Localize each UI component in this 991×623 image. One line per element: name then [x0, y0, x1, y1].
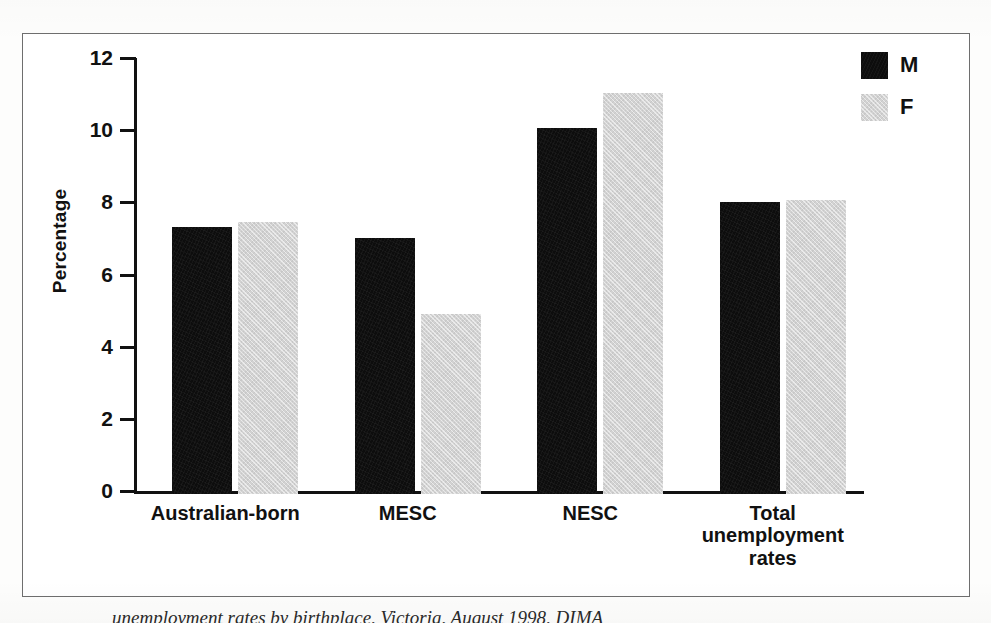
- y-tick-label-10: 10: [53, 119, 113, 140]
- y-tick-6: [120, 274, 136, 277]
- y-tick-label-0: 0: [53, 480, 113, 501]
- legend-entry-m: M: [861, 44, 961, 86]
- y-tick-10: [120, 129, 136, 132]
- bar-m-1: [355, 238, 415, 494]
- y-tick-8: [120, 201, 136, 204]
- legend-swatch-female-icon: [861, 94, 888, 121]
- x-category-line: rates: [657, 547, 890, 569]
- bar-f-3: [786, 200, 846, 494]
- chart-legend: M F: [861, 44, 961, 128]
- y-tick-2: [120, 418, 136, 421]
- scanned-page: 024681012 Percentage Australian-bornMESC…: [0, 0, 991, 623]
- legend-entry-f: F: [861, 86, 961, 128]
- figure-frame: 024681012 Percentage Australian-bornMESC…: [22, 33, 970, 597]
- y-tick-4: [120, 346, 136, 349]
- y-tick-0: [120, 490, 136, 493]
- x-category-line: unemployment: [657, 524, 890, 546]
- bar-chart-plot-area: 024681012 Percentage Australian-bornMESC…: [23, 34, 971, 598]
- legend-label-female: F: [900, 94, 913, 120]
- bar-m-3: [720, 202, 780, 494]
- x-category-label-3: Totalunemploymentrates: [657, 502, 890, 569]
- y-tick-12: [120, 57, 136, 60]
- x-category-line: Total: [657, 502, 890, 524]
- bar-f-0: [238, 222, 298, 494]
- y-axis-title: Percentage: [49, 146, 71, 336]
- bar-m-0: [172, 227, 232, 494]
- legend-label-male: M: [900, 52, 918, 78]
- bar-f-1: [421, 314, 481, 494]
- figure-caption-partial: unemployment rates by birthplace, Victor…: [112, 607, 912, 623]
- y-tick-label-12: 12: [53, 47, 113, 68]
- legend-swatch-male-icon: [861, 52, 888, 79]
- y-tick-label-4: 4: [53, 336, 113, 357]
- y-tick-label-2: 2: [53, 408, 113, 429]
- bar-f-2: [603, 93, 663, 494]
- bar-m-2: [537, 128, 597, 494]
